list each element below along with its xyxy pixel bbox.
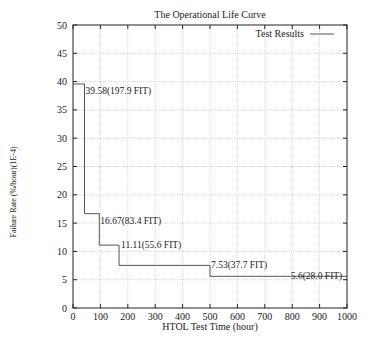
chart-title: The Operational Life Curve (154, 9, 266, 20)
data-label: 11.11(55.6 FIT) (121, 240, 181, 251)
y-tick-label: 50 (57, 20, 67, 31)
x-tick-label: 700 (257, 311, 272, 322)
y-tick-label: 40 (57, 76, 67, 87)
y-tick-label: 15 (57, 218, 67, 229)
x-tick-label: 200 (120, 311, 135, 322)
x-tick-label: 900 (312, 311, 327, 322)
y-tick-label: 45 (57, 48, 67, 59)
data-labels: 39.58(197.9 FIT)16.67(83.4 FIT)11.11(55.… (86, 86, 343, 282)
x-tick-label: 300 (148, 311, 163, 322)
x-tick-label: 0 (71, 311, 76, 322)
legend-label: Test Results (256, 28, 305, 39)
legend: Test Results (256, 28, 334, 39)
data-label: 39.58(197.9 FIT) (86, 86, 152, 97)
y-tick-label: 10 (57, 246, 67, 257)
x-tick-label: 800 (285, 311, 300, 322)
y-tick-label: 0 (62, 303, 67, 314)
y-tick-label: 20 (57, 189, 67, 200)
y-tick-label: 35 (57, 104, 67, 115)
data-label: 7.53(37.7 FIT) (211, 260, 267, 271)
y-tick-label: 25 (57, 161, 67, 172)
chart: 39.58(197.9 FIT)16.67(83.4 FIT)11.11(55.… (0, 0, 372, 345)
data-label: 5.6(28.0 FIT) (291, 271, 342, 282)
x-axis-label: HTOL Test Time (hour) (162, 321, 258, 333)
y-tick-label: 5 (62, 274, 67, 285)
data-label: 16.67(83.4 FIT) (100, 216, 161, 227)
x-tick-label: 100 (93, 311, 108, 322)
y-tick-label: 30 (57, 133, 67, 144)
x-tick-label: 1000 (337, 311, 357, 322)
y-axis-label: Failure Rate (%/hour)(1E-4) (9, 146, 18, 237)
